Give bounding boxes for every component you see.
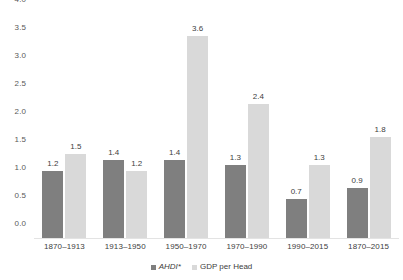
bar-column: 1.2: [126, 14, 147, 238]
bar-group: 0.91.8: [338, 14, 399, 238]
bar[interactable]: [286, 199, 307, 238]
bar-column: 1.8: [370, 14, 391, 238]
bar-chart: 4.0 3.5 3.0 2.5 2.0 1.5 1.0 0.5 0.0 1.21…: [0, 0, 403, 280]
chart-legend: AHDI*GDP per Head: [0, 263, 403, 271]
legend-label: AHDI*: [159, 263, 181, 271]
legend-item[interactable]: GDP per Head: [192, 263, 252, 271]
y-tick-label: 0.0: [0, 220, 26, 228]
plot-area: 1.21.51.41.21.43.61.32.40.71.30.91.8: [34, 14, 399, 238]
bar-value-label: 1.2: [122, 160, 152, 168]
y-tick-label: 4.0: [0, 0, 26, 4]
bar-column: 0.7: [286, 14, 307, 238]
bar-value-label: 0.9: [342, 177, 372, 185]
bar-group: 0.71.3: [277, 14, 338, 238]
x-axis-baseline: [34, 238, 399, 239]
legend-swatch-icon: [151, 265, 156, 270]
bar[interactable]: [126, 171, 147, 238]
bar-value-label: 1.8: [365, 126, 395, 134]
y-tick-label: 3.5: [0, 24, 26, 32]
bar-column: 3.6: [187, 14, 208, 238]
y-tick-label: 1.5: [0, 136, 26, 144]
x-axis-tick-label: 1870–2015: [338, 243, 399, 251]
bar-value-label: 1.2: [38, 160, 68, 168]
bar-group: 1.43.6: [156, 14, 217, 238]
bar[interactable]: [164, 160, 185, 238]
bar-column: 1.3: [225, 14, 246, 238]
bar[interactable]: [103, 160, 124, 238]
bar[interactable]: [42, 171, 63, 238]
x-axis-tick-label: 1913–1950: [95, 243, 156, 251]
bar[interactable]: [347, 188, 368, 238]
bar-column: 1.4: [164, 14, 185, 238]
x-axis-tick-label: 1970–1990: [216, 243, 277, 251]
x-axis-tick-label: 1990–2015: [277, 243, 338, 251]
bar-value-label: 1.3: [220, 154, 250, 162]
bar[interactable]: [65, 154, 86, 238]
legend-label: GDP per Head: [200, 263, 252, 271]
x-axis-tick-label: 1870–1913: [34, 243, 95, 251]
bar[interactable]: [248, 104, 269, 238]
bar-value-label: 1.3: [304, 154, 334, 162]
y-tick-label: 1.0: [0, 164, 26, 172]
x-axis-labels: 1870–19131913–19501950–19701970–19901990…: [34, 243, 399, 251]
bar-column: 2.4: [248, 14, 269, 238]
bar-column: 1.3: [309, 14, 330, 238]
legend-item[interactable]: AHDI*: [151, 263, 181, 271]
bar-value-label: 1.4: [99, 149, 129, 157]
y-tick-label: 3.0: [0, 52, 26, 60]
bar-value-label: 2.4: [243, 93, 273, 101]
bar[interactable]: [225, 165, 246, 238]
bar-column: 1.4: [103, 14, 124, 238]
bar-column: 1.2: [42, 14, 63, 238]
y-tick-label: 2.5: [0, 80, 26, 88]
y-tick-label: 2.0: [0, 108, 26, 116]
legend-swatch-icon: [192, 265, 197, 270]
bar[interactable]: [187, 36, 208, 238]
bar-value-label: 1.4: [160, 149, 190, 157]
x-axis-tick-label: 1950–1970: [156, 243, 217, 251]
bar-group: 1.32.4: [216, 14, 277, 238]
bar[interactable]: [309, 165, 330, 238]
bar-value-label: 3.6: [183, 25, 213, 33]
bar-value-label: 1.5: [61, 143, 91, 151]
bar-group: 1.41.2: [95, 14, 156, 238]
y-tick-label: 0.5: [0, 192, 26, 200]
bar-value-label: 0.7: [281, 188, 311, 196]
bar[interactable]: [370, 137, 391, 238]
bar-column: 1.5: [65, 14, 86, 238]
bar-group: 1.21.5: [34, 14, 95, 238]
